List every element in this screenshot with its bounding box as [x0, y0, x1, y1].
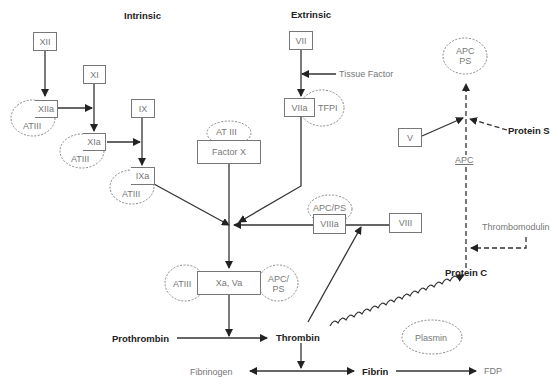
apc-ps-top-label: APC PS	[456, 46, 475, 67]
xa-va-complex-box: Xa, Va	[197, 271, 261, 295]
thrombin-label: Thrombin	[276, 333, 320, 343]
fdp-label: FDP	[484, 367, 502, 376]
atiii-xa-label: ATIII	[173, 279, 191, 289]
fibrin-label: Fibrin	[362, 367, 388, 377]
apc-ps-xa-line1: APC/	[268, 274, 289, 284]
protein-s-label: Protein S	[508, 126, 550, 136]
factor-xiia-box: XIIa	[35, 100, 58, 118]
protein-c-label: Protein C	[445, 268, 487, 278]
factor-viia-box: VIIa	[284, 98, 315, 117]
factor-vii-box: VII	[289, 31, 313, 50]
factor-xii-box: XII	[33, 32, 57, 51]
factor-ix-box: IX	[131, 99, 155, 118]
apc-ps-xa-line2: PS	[268, 284, 289, 294]
factor-ixa-box: IXa	[131, 167, 155, 185]
factor-x-box: Factor X	[197, 140, 261, 164]
apc-label: APC	[455, 155, 474, 166]
extrinsic-header: Extrinsic	[291, 10, 331, 20]
atiii-ixa-label: ATIII	[122, 189, 140, 199]
thrombomodulin-label: Thrombomodulin	[482, 223, 550, 232]
factor-viiia-box: VIIIa	[313, 214, 346, 234]
at-iii-factor-x-label: AT III	[216, 127, 237, 137]
prothrombin-label: Prothrombin	[112, 334, 169, 344]
apc-ps-top-line2: PS	[456, 56, 475, 66]
intrinsic-header: Intrinsic	[124, 11, 161, 21]
tissue-factor-label: Tissue Factor	[339, 70, 393, 79]
factor-viii-box: VIII	[389, 213, 422, 233]
atiii-xiia-label: ATIII	[23, 121, 41, 131]
factor-xia-box: XIa	[83, 133, 106, 151]
fibrinogen-label: Fibrinogen	[190, 368, 233, 377]
factor-xi-box: XI	[83, 65, 106, 84]
apc-ps-xa-label: APC/ PS	[268, 274, 289, 295]
apc-ps-viiia-label: APC/PS	[313, 203, 346, 213]
factor-v-box: V	[398, 128, 422, 147]
plasmin-label: Plasmin	[415, 333, 447, 343]
atiii-xia-label: ATIII	[71, 154, 89, 164]
tfpi-label: TFPI	[318, 103, 338, 113]
apc-ps-top-line1: APC	[456, 46, 475, 56]
